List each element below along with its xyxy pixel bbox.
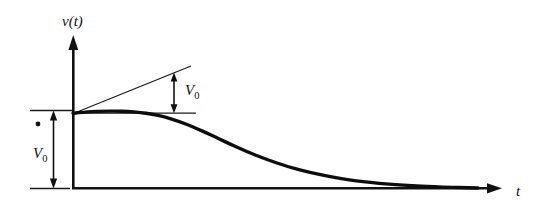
figure-container: V0 v(t) t V0 bbox=[0, 0, 542, 212]
figure-canvas: V0 v(t) t V0 bbox=[0, 0, 542, 212]
reference-dot-marker bbox=[36, 122, 41, 127]
initial-slope-arrowhead-down bbox=[171, 104, 178, 113]
initial-value-dimension bbox=[50, 111, 57, 189]
initial-value-arrowhead-up bbox=[50, 111, 57, 121]
initial-slope-label: V0 bbox=[185, 82, 199, 101]
initial-slope-dimension bbox=[171, 73, 178, 114]
horizontal-axis-arrowhead bbox=[487, 183, 502, 193]
response-curve bbox=[73, 111, 478, 188]
vertical-axis-label: v(t) bbox=[62, 13, 83, 30]
initial-slope-label-subscript: 0 bbox=[194, 90, 199, 101]
initial-value-arrowhead-down bbox=[50, 179, 57, 189]
initial-value-label: V0 bbox=[33, 145, 47, 164]
initial-value-label-subscript: 0 bbox=[42, 153, 47, 164]
horizontal-axis-label: t bbox=[516, 183, 521, 199]
vertical-axis-arrowhead bbox=[68, 35, 78, 50]
